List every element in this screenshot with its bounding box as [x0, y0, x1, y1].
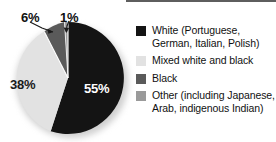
legend-swatch-black-icon: [136, 74, 146, 84]
legend-item-black[interactable]: Black: [136, 72, 276, 85]
pie-graphic: [0, 8, 132, 142]
legend-swatch-mixed-icon: [136, 56, 146, 66]
legend-item-white[interactable]: White (Portuguese, German, Italian, Poli…: [136, 24, 276, 49]
legend-swatch-other-icon: [136, 91, 146, 101]
legend-item-other[interactable]: Other (including Japanese, Arab, indigen…: [136, 89, 276, 114]
pie-chart-figure: 55% 38% 6% 1% White (Portuguese, German,…: [0, 0, 276, 142]
legend-label-other: Other (including Japanese, Arab, indigen…: [152, 89, 276, 114]
legend-label-mixed: Mixed white and black: [152, 54, 253, 67]
pie-label-6: 6%: [21, 10, 39, 25]
pie-chart-area: 55% 38% 6% 1%: [0, 8, 132, 142]
pie-label-1: 1%: [60, 10, 78, 25]
legend-label-white: White (Portuguese, German, Italian, Poli…: [152, 24, 276, 49]
legend-swatch-white-icon: [136, 26, 146, 36]
top-divider-rule: [126, 0, 276, 2]
legend-item-mixed[interactable]: Mixed white and black: [136, 54, 276, 67]
pie-label-55: 55%: [84, 81, 109, 96]
pie-label-38: 38%: [10, 77, 35, 92]
legend-label-black: Black: [152, 72, 177, 85]
legend: White (Portuguese, German, Italian, Poli…: [136, 24, 276, 119]
